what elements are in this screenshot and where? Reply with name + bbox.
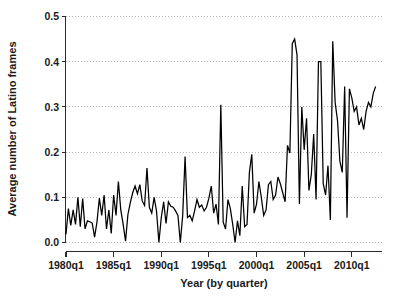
y-tick-label: 0.4 bbox=[44, 56, 59, 68]
x-tick-group: 1980q11985q11990q11995q12000q12005q12010… bbox=[48, 252, 370, 272]
y-tick-label: 0.0 bbox=[44, 236, 59, 248]
x-tick-label: 1995q1 bbox=[191, 259, 227, 271]
line-chart: 0.00.10.20.30.40.5 1980q11985q11990q1199… bbox=[0, 0, 402, 306]
x-tick-label: 1990q1 bbox=[143, 259, 179, 271]
y-tick-label: 0.2 bbox=[44, 146, 59, 158]
chart-figure: 0.00.10.20.30.40.5 1980q11985q11990q1199… bbox=[0, 0, 402, 306]
x-tick-label: 2000q1 bbox=[239, 259, 275, 271]
series-line-latino-frames bbox=[66, 39, 376, 242]
y-tick-label: 0.3 bbox=[44, 101, 59, 113]
y-tick-label: 0.5 bbox=[44, 10, 59, 22]
x-tick-label: 1985q1 bbox=[96, 259, 132, 271]
x-axis-title: Year (by quarter) bbox=[180, 277, 268, 289]
y-tick-group: 0.00.10.20.30.40.5 bbox=[44, 10, 66, 248]
x-tick-label: 2010q1 bbox=[334, 259, 370, 271]
y-tick-label: 0.1 bbox=[44, 191, 59, 203]
axes-group bbox=[66, 16, 383, 252]
x-tick-label: 1980q1 bbox=[48, 259, 84, 271]
y-axis-title: Average number of Latino frames bbox=[6, 41, 18, 216]
x-tick-label: 2005q1 bbox=[286, 259, 322, 271]
